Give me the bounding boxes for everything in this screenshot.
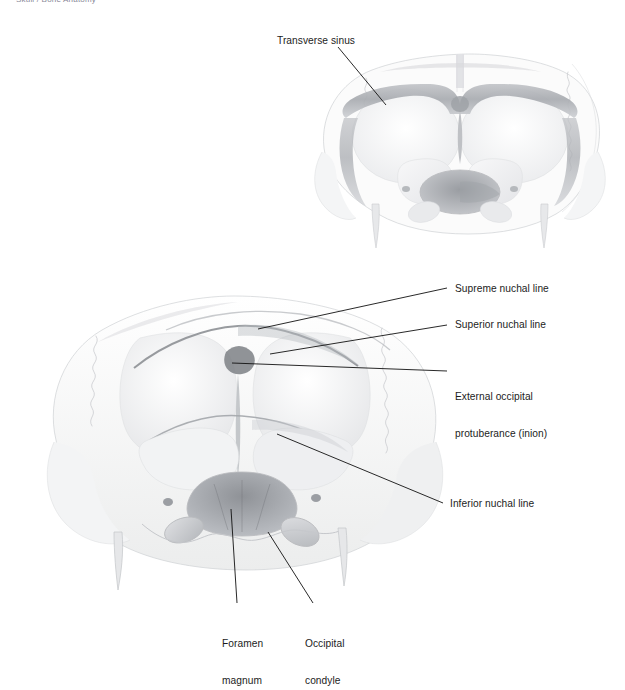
label-superior-nuchal-line: Superior nuchal line (455, 319, 546, 331)
label-foramen-magnum-line2: magnum (222, 675, 263, 687)
label-external-occipital-line1: External occipital (455, 391, 547, 403)
internal-occipital-protuberance (451, 96, 469, 112)
styloid-process-left (114, 532, 123, 590)
label-occipital-condyle-line1: Occipital (305, 638, 345, 650)
label-occipital-condyle: Occipital condyle (305, 613, 345, 690)
page-caption: Skull / Bone Anatomy (16, 0, 96, 4)
jugular-foramen-left (402, 186, 410, 192)
figure-occipital-bone-posterior-view (38, 290, 458, 600)
condylar-fossa-right (311, 494, 321, 502)
label-foramen-magnum-line1: Foramen (222, 638, 263, 650)
label-occipital-condyle-line2: condyle (305, 675, 345, 687)
label-transverse-sinus: Transverse sinus (277, 35, 355, 47)
label-inferior-nuchal-line1: Inferior nuchal line (450, 498, 534, 509)
label-external-occipital-line2: protuberance (inion) (455, 428, 547, 440)
label-inferior-nuchal-line: Inferior nuchal line (450, 498, 534, 510)
label-supreme-nuchal-line: Supreme nuchal line (455, 283, 549, 295)
styloid-process-right-internal (541, 204, 548, 248)
styloid-process-left-internal (372, 204, 379, 248)
label-external-occipital-protuberance: External occipital protuberance (inion) (455, 366, 547, 465)
label-supreme-nuchal-line1: Supreme nuchal line (455, 283, 549, 294)
label-transverse-sinus-line1: Transverse sinus (277, 35, 355, 46)
figure-occipital-bone-internal-view (310, 52, 610, 247)
jugular-foramen-right (510, 186, 518, 192)
label-superior-nuchal-line1: Superior nuchal line (455, 319, 546, 330)
styloid-process-right (338, 528, 347, 586)
condylar-fossa-left (163, 498, 173, 506)
label-foramen-magnum: Foramen magnum (222, 613, 263, 690)
